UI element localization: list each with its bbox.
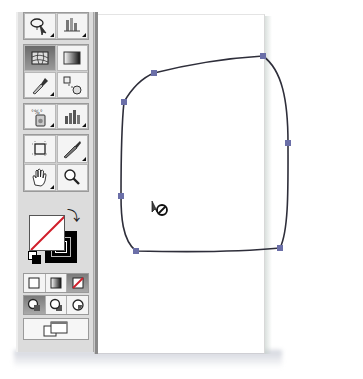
mesh-icon [29, 48, 51, 68]
color-mode-buttons [23, 273, 89, 293]
svg-text:°%°: °%° [31, 108, 43, 115]
default-fill-stroke-icon[interactable] [28, 251, 40, 263]
mesh-tool[interactable] [24, 45, 56, 71]
gradient-icon [61, 48, 83, 68]
flyout-indicator [82, 123, 86, 127]
draw-behind-button[interactable] [46, 296, 67, 314]
magnifier-icon [61, 167, 83, 187]
draw-behind-icon [49, 298, 63, 312]
bar-chart-icon [61, 107, 83, 127]
flyout-indicator [50, 92, 54, 96]
lasso-tool[interactable] [24, 13, 56, 39]
column-graph-icon [61, 16, 83, 36]
graph-data-tool[interactable] [57, 13, 89, 39]
none-indicator [30, 215, 65, 250]
fill-stroke-control: ⤵ [23, 209, 89, 271]
column-graph-tool[interactable] [57, 104, 89, 129]
tools-panel: °%° [16, 12, 94, 352]
draw-mode-buttons [23, 295, 89, 315]
tool-group-2 [23, 44, 89, 99]
tool-group-3: °%° [23, 103, 89, 130]
anchor-point[interactable] [277, 245, 283, 251]
eyedropper-icon [29, 75, 51, 95]
lasso-icon [29, 16, 51, 36]
gradient-button[interactable] [46, 274, 67, 292]
anchor-point[interactable] [285, 140, 291, 146]
eyedropper-not-allowed-cursor-icon [150, 199, 170, 217]
gradient-tool[interactable] [57, 45, 89, 71]
artboard-canvas[interactable] [97, 14, 265, 354]
draw-inside-button[interactable] [67, 296, 88, 314]
draw-normal-icon [27, 298, 41, 312]
flyout-indicator [82, 33, 86, 37]
flyout-indicator [50, 185, 54, 189]
crop-area-tool[interactable] [24, 135, 56, 163]
none-swatch-icon [72, 277, 84, 289]
hand-tool[interactable] [24, 164, 56, 192]
eyedropper-tool[interactable] [24, 72, 56, 98]
crop-area-icon [29, 139, 51, 159]
swap-fill-stroke-icon[interactable]: ⤵ [67, 209, 80, 222]
hand-icon [29, 167, 51, 187]
fill-swatch[interactable] [29, 215, 65, 251]
slice-tool[interactable] [57, 135, 89, 163]
knife-icon [61, 139, 83, 159]
gradient-swatch-icon [50, 277, 62, 289]
panel-divider [94, 12, 98, 354]
symbol-sprayer-tool[interactable]: °%° [24, 104, 56, 129]
change-screen-mode-button[interactable] [23, 318, 89, 340]
none-button[interactable] [67, 274, 88, 292]
screen-mode-icon [38, 320, 74, 338]
flyout-indicator [50, 123, 54, 127]
flyout-indicator [50, 33, 54, 37]
draw-inside-icon [71, 298, 85, 312]
blend-icon [61, 75, 83, 95]
blend-tool[interactable] [57, 72, 89, 98]
draw-normal-button[interactable] [24, 296, 45, 314]
tool-group-4 [23, 134, 89, 192]
solid-color-icon [28, 277, 40, 289]
color-button[interactable] [24, 274, 45, 292]
tool-group-1 [23, 12, 89, 40]
symbol-sprayer-icon: °%° [29, 107, 51, 127]
flyout-indicator [82, 157, 86, 161]
zoom-tool[interactable] [57, 164, 89, 192]
canvas-right-shadow [264, 16, 272, 354]
